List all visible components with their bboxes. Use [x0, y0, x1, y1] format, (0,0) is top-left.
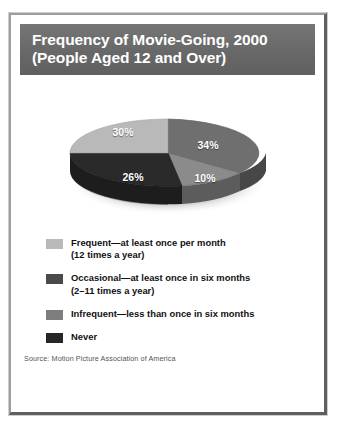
chart-title-bar: Frequency of Movie-Going, 2000 (People A… [20, 24, 315, 75]
pie-chart-svg [64, 87, 272, 219]
figure-panel: Frequency of Movie-Going, 2000 (People A… [11, 15, 324, 412]
legend-label-infrequent-main: Infrequent—less than once in six months [71, 308, 254, 319]
legend-label-occasional: Occasional—at least once in six months (… [71, 272, 250, 296]
legend-swatch-icon-frequent [46, 239, 63, 249]
legend-label-infrequent: Infrequent—less than once in six months [71, 308, 254, 320]
legend-label-frequent-main: Frequent—at least once per month [71, 237, 226, 248]
pie-label-infrequent: 10% [195, 172, 216, 184]
pie-label-never: 30% [113, 126, 134, 138]
chart-plot-area: 34% 10% 26% 30% [20, 75, 315, 233]
legend-label-never-main: Never [71, 331, 97, 342]
pie-chart: 34% 10% 26% 30% [64, 87, 272, 219]
chart-legend: Frequent—at least once per month (12 tim… [20, 237, 315, 343]
legend-item-infrequent: Infrequent—less than once in six months [46, 308, 315, 320]
legend-item-frequent: Frequent—at least once per month (12 tim… [46, 237, 315, 261]
figure-container: Frequency of Movie-Going, 2000 (People A… [0, 0, 338, 428]
legend-label-never: Never [71, 331, 97, 343]
legend-label-occasional-main: Occasional—at least once in six months [71, 272, 250, 283]
figure-frame: Frequency of Movie-Going, 2000 (People A… [9, 13, 327, 415]
legend-swatch-icon-infrequent [46, 310, 63, 320]
legend-label-frequent: Frequent—at least once per month (12 tim… [71, 237, 226, 261]
pie-label-occasional: 26% [123, 171, 144, 183]
legend-item-occasional: Occasional—at least once in six months (… [46, 272, 315, 296]
legend-item-never: Never [46, 331, 315, 343]
pie-label-frequent: 34% [198, 139, 219, 151]
legend-swatch-icon-occasional [46, 274, 63, 284]
chart-title-line-2: (People Aged 12 and Over) [32, 49, 305, 67]
legend-label-frequent-sub: (12 times a year) [71, 249, 226, 261]
legend-label-occasional-sub: (2–11 times a year) [71, 285, 250, 297]
pie-top-faces [70, 119, 259, 186]
chart-title-line-1: Frequency of Movie-Going, 2000 [32, 31, 305, 49]
legend-swatch-icon-never [46, 333, 63, 343]
chart-source-note: Source: Motion Picture Association of Am… [24, 354, 315, 363]
